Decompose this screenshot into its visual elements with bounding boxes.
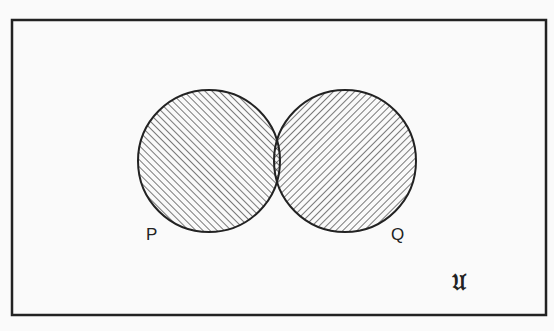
set-p-label: P	[146, 225, 157, 244]
universe-label: 𝔘	[452, 269, 467, 295]
set-q-label: Q	[391, 225, 404, 244]
venn-diagram: P Q 𝔘	[0, 0, 554, 331]
